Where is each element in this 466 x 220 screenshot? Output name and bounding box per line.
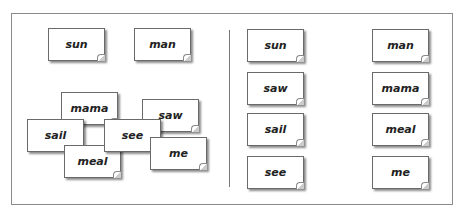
sorted-card-see: see bbox=[247, 156, 304, 189]
sorted-card-mama: mama bbox=[372, 72, 429, 105]
page-curl-icon bbox=[191, 125, 199, 132]
sorted-card-meal: meal bbox=[372, 113, 429, 146]
page-curl-icon bbox=[421, 98, 429, 105]
page-curl-icon bbox=[421, 139, 429, 146]
page-curl-icon bbox=[199, 163, 207, 170]
page-curl-icon bbox=[296, 182, 304, 189]
unsorted-card-man: man bbox=[134, 28, 191, 61]
sorted-card-saw: saw bbox=[247, 72, 304, 105]
card-word: me bbox=[169, 147, 188, 160]
sorted-card-me: me bbox=[372, 156, 429, 189]
card-word: saw bbox=[158, 109, 182, 122]
page-curl-icon bbox=[113, 171, 121, 178]
card-word: see bbox=[265, 166, 286, 179]
card-word: saw bbox=[263, 82, 287, 95]
page-curl-icon bbox=[183, 54, 191, 61]
unsorted-card-me: me bbox=[150, 137, 207, 170]
card-word: sail bbox=[45, 129, 67, 142]
sorted-card-man: man bbox=[372, 29, 429, 62]
card-word: sun bbox=[65, 38, 87, 51]
unsorted-card-sun: sun bbox=[48, 28, 105, 61]
panel-divider bbox=[229, 30, 230, 187]
card-word: mama bbox=[382, 82, 420, 95]
card-word: mama bbox=[71, 102, 109, 115]
page-curl-icon bbox=[296, 98, 304, 105]
sorted-card-sun: sun bbox=[247, 29, 304, 62]
card-word: sail bbox=[265, 123, 287, 136]
card-word: sun bbox=[264, 39, 286, 52]
page-curl-icon bbox=[421, 182, 429, 189]
card-word: me bbox=[391, 166, 410, 179]
page-curl-icon bbox=[421, 55, 429, 62]
card-word: man bbox=[387, 39, 414, 52]
card-word: meal bbox=[385, 123, 415, 136]
sorted-card-sail: sail bbox=[247, 113, 304, 146]
page-curl-icon bbox=[296, 139, 304, 146]
page-curl-icon bbox=[97, 54, 105, 61]
page-curl-icon bbox=[296, 55, 304, 62]
card-word: man bbox=[149, 38, 176, 51]
card-word: see bbox=[122, 129, 143, 142]
card-word: meal bbox=[77, 155, 107, 168]
